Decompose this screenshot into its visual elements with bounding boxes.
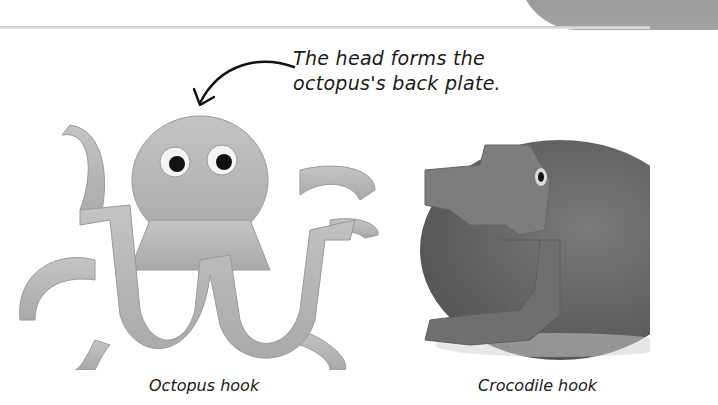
curved-arrow-icon <box>190 55 300 115</box>
crocodile-hook-caption: Crocodile hook <box>478 376 597 395</box>
annotation-text: The head forms the octopus's back plate. <box>293 46 501 96</box>
section-divider <box>0 26 650 29</box>
annotation-line-1: The head forms the <box>293 46 501 71</box>
annotation-line-2: octopus's back plate. <box>293 71 501 96</box>
octopus-hook-caption: Octopus hook <box>149 376 259 395</box>
crocodile-hook-photo <box>410 140 650 365</box>
octopus-hook-photo <box>0 110 400 370</box>
